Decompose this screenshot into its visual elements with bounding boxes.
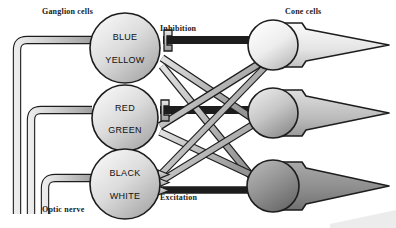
diagram-canvas — [0, 0, 396, 228]
cone-3-body — [247, 160, 299, 212]
ganglion-label-green: GREEN — [108, 125, 142, 135]
ganglion-3-body — [90, 149, 160, 219]
ganglion-cell-blue-yellow — [90, 13, 160, 83]
ganglion-cell-black-white — [90, 149, 160, 219]
optic-nerve-tracks — [17, 40, 92, 214]
optic-nerve-label: Optic nerve — [42, 205, 84, 214]
optic-track-outline-2 — [31, 110, 92, 214]
ganglion-label-yellow: YELLOW — [105, 55, 144, 65]
ganglion-label-blue: BLUE — [113, 32, 138, 42]
cone-cells-label: Cone cells — [285, 7, 321, 16]
opponent-process-diagram: Ganglion cells Cone cells Inhibition Exc… — [0, 0, 396, 228]
inhibition-label: Inhibition — [160, 24, 196, 33]
background-sliver — [330, 210, 396, 228]
optic-track-2 — [31, 110, 92, 214]
cone-cell-2 — [248, 88, 389, 138]
ganglion-cell-red-green — [92, 85, 158, 151]
ganglion-2-body — [92, 85, 158, 151]
excitation-label: Excitation — [160, 193, 197, 202]
cone-cell-3 — [247, 160, 389, 212]
ganglion-label-red: RED — [115, 103, 135, 113]
ganglion-label-black: BLACK — [109, 168, 140, 178]
ganglion-1-body — [90, 13, 160, 83]
ganglion-cells-label: Ganglion cells — [42, 7, 93, 16]
cone-1-body — [248, 20, 298, 70]
ganglion-label-white: WHITE — [110, 191, 141, 201]
cone-2-body — [248, 88, 298, 138]
cone-cell-1 — [248, 20, 389, 70]
